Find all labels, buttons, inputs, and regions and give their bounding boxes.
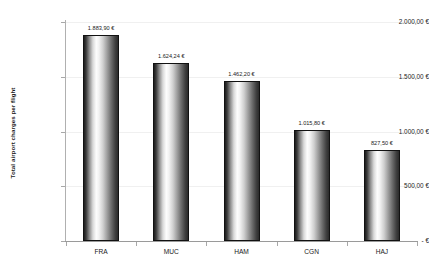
x-tick-mark bbox=[347, 242, 348, 246]
x-category-label: HAJ bbox=[376, 248, 388, 255]
bar-value-label: 1.624,24 € bbox=[158, 53, 184, 59]
x-category-label: CGN bbox=[304, 248, 319, 255]
x-tick-mark bbox=[277, 242, 278, 246]
bar bbox=[224, 81, 260, 241]
bar bbox=[364, 150, 400, 241]
bar-value-label: 827,50 € bbox=[371, 140, 393, 146]
x-tick-mark bbox=[136, 242, 137, 246]
x-category-label: MUC bbox=[164, 248, 179, 255]
y-axis-title: Total airport charges per flight bbox=[0, 0, 24, 266]
bar-value-label: 1.015,80 € bbox=[298, 120, 324, 126]
x-category-label: HAM bbox=[234, 248, 249, 255]
bar bbox=[294, 130, 330, 241]
x-tick-mark bbox=[417, 242, 418, 246]
x-tick-mark bbox=[66, 242, 67, 246]
x-axis-line bbox=[65, 241, 418, 242]
bar bbox=[83, 35, 119, 241]
bar bbox=[153, 63, 189, 241]
x-tick-mark bbox=[206, 242, 207, 246]
bar-chart: Total airport charges per flight - €500,… bbox=[0, 0, 429, 266]
bar-value-label: 1.883,90 € bbox=[88, 25, 114, 31]
plot-area bbox=[66, 22, 417, 241]
bar-value-label: 1.462,20 € bbox=[228, 71, 254, 77]
x-category-label: FRA bbox=[95, 248, 108, 255]
